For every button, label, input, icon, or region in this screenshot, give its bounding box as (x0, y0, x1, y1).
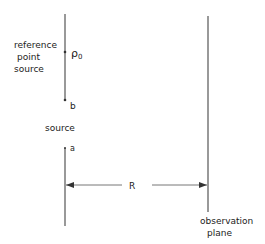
reference-label-line3: source (14, 64, 44, 74)
rho-subscript: 0 (78, 53, 82, 61)
distance-R-label: R (129, 181, 135, 191)
reference-label-line1: reference (14, 40, 57, 50)
diagram-canvas: reference point source ρ0 b source a R o… (0, 0, 265, 244)
endpoint-a-label: a (70, 144, 75, 153)
source-label: source (45, 123, 75, 133)
rho-symbol: ρ (71, 47, 78, 60)
rho-label: ρ0 (71, 47, 82, 61)
observation-label-line2: plane (207, 228, 232, 238)
reference-point-dot (64, 51, 67, 54)
endpoint-a-dot (64, 147, 66, 149)
endpoint-b-dot (64, 99, 67, 102)
endpoint-b-label: b (70, 101, 76, 111)
reference-label-line2: point (17, 52, 40, 62)
observation-label-line1: observation (200, 216, 253, 226)
